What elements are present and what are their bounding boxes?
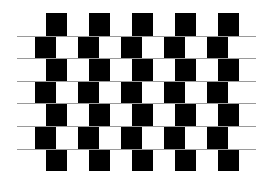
black-tile	[121, 81, 142, 103]
black-tile	[89, 103, 110, 126]
black-tile	[175, 58, 196, 81]
black-tile	[164, 126, 185, 149]
black-tile	[218, 103, 239, 126]
black-tile	[218, 13, 239, 36]
mortar-line	[17, 149, 256, 150]
black-tile	[121, 126, 142, 149]
black-tile	[207, 126, 228, 149]
mortar-line	[17, 126, 256, 127]
mortar-line	[17, 58, 256, 59]
mortar-line	[17, 103, 256, 104]
black-tile	[121, 36, 142, 58]
mortar-line	[17, 36, 256, 37]
black-tile	[78, 126, 99, 149]
black-tile	[132, 103, 153, 126]
black-tile	[78, 36, 99, 58]
black-tile	[89, 13, 110, 36]
black-tile	[132, 13, 153, 36]
cafe-wall-illusion	[0, 0, 272, 185]
black-tile	[164, 36, 185, 58]
black-tile	[35, 126, 56, 149]
black-tile	[89, 58, 110, 81]
black-tile	[175, 13, 196, 36]
black-tile	[218, 58, 239, 81]
black-tile	[207, 81, 228, 103]
black-tile	[218, 149, 239, 171]
black-tile	[164, 81, 185, 103]
black-tile	[46, 103, 67, 126]
black-tile	[35, 81, 56, 103]
black-tile	[175, 149, 196, 171]
black-tile	[78, 81, 99, 103]
black-tile	[46, 58, 67, 81]
black-tile	[35, 36, 56, 58]
black-tile	[89, 149, 110, 171]
black-tile	[207, 36, 228, 58]
black-tile	[132, 149, 153, 171]
mortar-line	[17, 81, 256, 82]
black-tile	[175, 103, 196, 126]
black-tile	[46, 149, 67, 171]
black-tile	[46, 13, 67, 36]
black-tile	[132, 58, 153, 81]
